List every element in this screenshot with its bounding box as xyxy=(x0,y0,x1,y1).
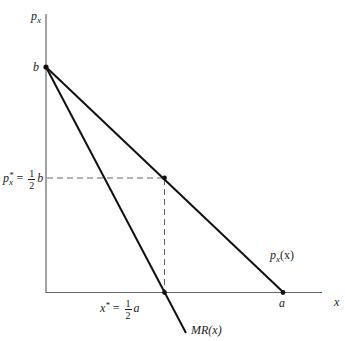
price-star-tail: b xyxy=(37,171,43,185)
x-axis-label: x xyxy=(334,296,339,308)
demand-curve-label: px(x) xyxy=(270,249,294,264)
a-label: a xyxy=(279,297,285,309)
point-b xyxy=(43,64,48,69)
price-star-fraction: 12 xyxy=(28,168,35,191)
y-axis-label-sub: x xyxy=(37,15,41,25)
x-star-fraction: 12 xyxy=(125,298,132,321)
b-label: b xyxy=(33,61,39,73)
x-star-frac-den: 2 xyxy=(126,310,131,321)
x-star-eq: = xyxy=(113,301,120,315)
x-star-sup: * xyxy=(105,300,110,310)
point-midpoint xyxy=(162,176,167,181)
x-star-tail: a xyxy=(134,301,140,315)
price-star-frac-den: 2 xyxy=(29,180,34,191)
diagram-canvas xyxy=(0,0,345,341)
price-star-sup: * xyxy=(9,170,14,180)
x-star-frac-num: 1 xyxy=(125,298,132,310)
point-a xyxy=(281,290,286,295)
y-axis-label: px xyxy=(31,10,41,25)
price-star-frac-num: 1 xyxy=(28,168,35,180)
point-x-star xyxy=(162,290,167,295)
mr-curve-label: MR(x) xyxy=(191,324,222,336)
price-star-label: px* = 12b xyxy=(3,168,43,191)
demand-mr-diagram: px b px* = 12b x* = 12a a x px(x) MR(x) xyxy=(0,0,345,341)
demand-label-arg: (x) xyxy=(280,248,294,262)
x-star-label: x* = 12a xyxy=(100,298,140,321)
price-star-eq: = xyxy=(17,171,24,185)
